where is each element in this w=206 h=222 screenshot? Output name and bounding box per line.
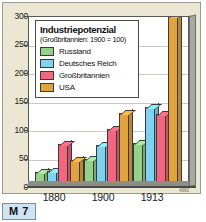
chart-subtitle: (Großbritannien: 1900 = 100) — [40, 35, 135, 44]
legend-swatch-icon — [40, 83, 54, 92]
bar-deutsches-reich-1900 — [96, 145, 106, 186]
chart-card: 050100150200250300 Industriepotenzial (G… — [2, 2, 201, 194]
bar-großbritannien-1900 — [107, 129, 117, 186]
bar-usa-1900 — [119, 113, 129, 186]
bar-großbritannien-1913 — [156, 114, 166, 186]
material-badge: M 7 — [2, 203, 36, 220]
source-code-label: 4960 — [179, 188, 189, 193]
legend-swatch-icon — [40, 71, 54, 80]
legend-item: Großbritannien — [40, 70, 135, 81]
legend-item-label: USA — [59, 83, 75, 92]
bar-side-face — [178, 16, 182, 185]
x-axis-tick-label: 1900 — [80, 191, 126, 203]
x-axis-tick-label: 1913 — [129, 191, 175, 203]
bar-top-face — [146, 104, 162, 109]
legend-item: Russland — [40, 46, 135, 57]
bar-großbritannien-1880 — [58, 144, 68, 186]
x-axis-tick-label: 1880 — [31, 191, 77, 203]
chart-legend: Industriepotenzial (Großbritannien: 1900… — [35, 20, 139, 98]
legend-item: Deutsches Reich — [40, 58, 135, 69]
x-axis-baseline — [28, 186, 196, 188]
legend-item-label: Deutsches Reich — [59, 59, 116, 68]
gridline — [29, 103, 188, 104]
industrial-potential-chart-figure: 050100150200250300 Industriepotenzial (G… — [0, 0, 206, 222]
y-axis: 050100150200250300 — [3, 3, 28, 195]
bar-side-face — [129, 109, 133, 185]
bar-top-face — [120, 110, 136, 115]
legend-item-label: Russland — [59, 47, 91, 56]
bar-top-face — [59, 141, 75, 146]
chart-title: Industriepotenzial — [40, 24, 135, 35]
bar-russland-1913 — [133, 143, 143, 186]
legend-item: USA — [40, 82, 135, 93]
legend-swatch-icon — [40, 47, 54, 56]
bar-usa-1913 — [168, 16, 178, 186]
legend-swatch-icon — [40, 59, 54, 68]
bar-deutsches-reich-1913 — [145, 107, 155, 186]
legend-item-label: Großbritannien — [59, 71, 110, 80]
plot-right-wall — [189, 15, 196, 187]
legend-items: RusslandDeutsches ReichGroßbritannienUSA — [40, 46, 135, 93]
bar-top-face — [169, 16, 185, 18]
